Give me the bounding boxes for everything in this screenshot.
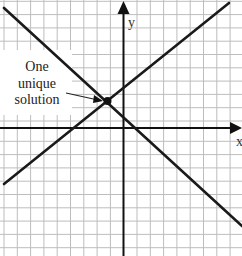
annotation-line-2: unique [18,76,56,91]
coordinate-graph: One unique solution y x [0,0,242,256]
intersection-point [104,97,112,105]
annotation-line-3: solution [14,92,59,107]
y-axis-arrow-icon [118,1,130,14]
x-axis-arrow-icon [230,122,242,134]
annotation-line-1: One [25,59,48,74]
x-axis-label: x [236,134,242,149]
y-axis-label: y [128,15,135,30]
x-axis [0,122,242,134]
